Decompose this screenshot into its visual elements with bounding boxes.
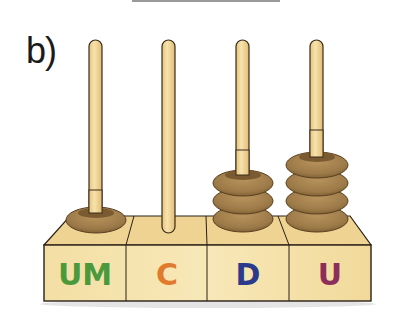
column-label-d: D: [236, 257, 261, 292]
bead: [213, 150, 273, 196]
column-label-um: UM: [58, 257, 112, 292]
beads-d: [213, 150, 273, 232]
rod-c: [162, 40, 175, 233]
beads-um: [66, 190, 126, 233]
column-label-u: U: [318, 257, 342, 292]
column-label-c: C: [156, 257, 178, 292]
bead: [66, 190, 126, 233]
beads-u: [286, 130, 348, 232]
bead: [286, 130, 348, 178]
abacus: UM C D U: [0, 0, 398, 319]
